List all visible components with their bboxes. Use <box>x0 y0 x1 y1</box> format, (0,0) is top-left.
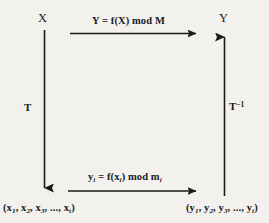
node-label-x: X <box>38 12 47 25</box>
left-arrow-label: T <box>24 102 31 113</box>
commutative-diagram: X Y Y = f(X) mod M yi = f(xi) mod mi T T… <box>0 0 269 223</box>
node-label-y-tuple: (y1, y2, y3, ..., yt) <box>186 203 258 215</box>
bottom-arrow-label: yi = f(xi) mod mi <box>88 172 162 184</box>
top-arrow-label: Y = f(X) mod M <box>92 16 165 27</box>
node-label-y: Y <box>219 12 228 25</box>
node-label-x-tuple: (x1, x2, x3, ..., xt) <box>3 203 75 215</box>
right-arrow-label: T−1 <box>229 101 244 112</box>
